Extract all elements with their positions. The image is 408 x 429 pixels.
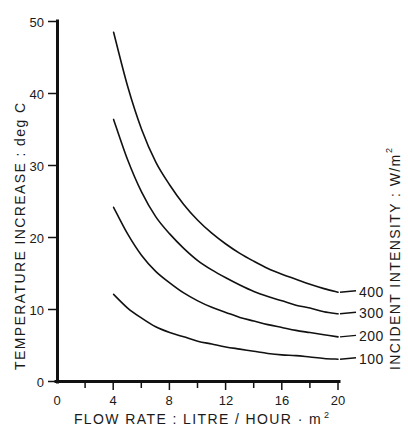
x-tick-label-0: 0 (53, 393, 60, 408)
y-tick-label-50: 50 (30, 15, 44, 30)
x-axis-title-group: FLOW RATE : LITRE / HOUR · m 2 (74, 410, 330, 427)
curve-400 (114, 32, 338, 292)
x-tick-label-16: 16 (275, 393, 289, 408)
y-tick-label-30: 30 (30, 159, 44, 174)
leader-400 (340, 291, 356, 293)
series-label-400: 400 (359, 284, 384, 300)
right-axis-title-group: INCIDENT INTENSITY : W/m 2 (384, 147, 403, 370)
leader-300 (340, 312, 356, 314)
y-tick-label-10: 10 (30, 303, 44, 318)
x-tick-label-20: 20 (331, 393, 345, 408)
series-label-100: 100 (359, 351, 384, 367)
series-label-300: 300 (359, 305, 384, 321)
y-tick-label-20: 20 (30, 231, 44, 246)
leader-100 (340, 358, 356, 360)
curve-200 (114, 207, 338, 337)
x-tick-label-12: 12 (219, 393, 233, 408)
chart-figure: 50 40 30 20 10 0 0 4 8 12 16 20 400 300 … (0, 0, 408, 429)
right-axis-title-superscript: 2 (384, 147, 394, 153)
curve-300 (114, 119, 338, 313)
leader-200 (340, 335, 356, 337)
series-label-200: 200 (359, 328, 384, 344)
x-axis-title: FLOW RATE : LITRE / HOUR · m (74, 411, 322, 427)
y-tick-label-40: 40 (30, 87, 44, 102)
right-axis-title: INCIDENT INTENSITY : W/m (387, 153, 403, 370)
y-tick-label-0: 0 (37, 375, 44, 390)
x-tick-label-4: 4 (109, 393, 116, 408)
x-tick-label-8: 8 (165, 393, 172, 408)
y-axis-title: TEMPERATURE INCREASE : deg C (12, 102, 28, 370)
curve-100 (114, 294, 338, 359)
x-axis-title-superscript: 2 (324, 410, 330, 420)
